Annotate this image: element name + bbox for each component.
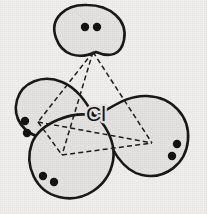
electron-dot	[39, 172, 47, 180]
orbital-diagram-figure: Cl Cl	[0, 0, 207, 214]
electron-dot	[81, 23, 89, 31]
central-atom-label: Cl	[86, 102, 106, 125]
electron-dot	[93, 23, 101, 31]
electron-dot	[23, 129, 31, 137]
electron-dot	[168, 152, 176, 160]
electron-dot	[173, 140, 181, 148]
electron-dot	[21, 117, 29, 125]
diagram-canvas: Cl Cl	[0, 0, 207, 214]
electron-dot	[50, 178, 58, 186]
central-atom-label-group: Cl Cl	[86, 102, 106, 125]
top-orbital-lobe	[54, 5, 124, 56]
